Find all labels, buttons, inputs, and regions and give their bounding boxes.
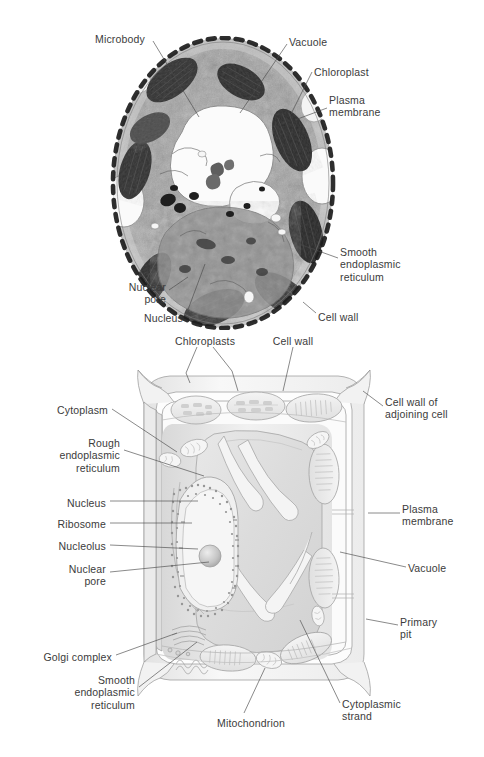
label-top-smooth-er: Smooth endoplasmic reticulum: [340, 246, 401, 283]
label-bottom-nucleus: Nucleus: [0, 497, 106, 509]
label-bottom-ribosome: Ribosome: [0, 518, 106, 530]
label-bottom-cell-wall-adjoining: Cell wall of adjoining cell: [385, 396, 448, 421]
label-bottom-smooth-er: Smooth endoplasmic reticulum: [0, 674, 135, 711]
plant-cell-drawing-image: [128, 362, 380, 706]
label-bottom-nuclear-pore: Nuclear pore: [0, 563, 106, 588]
label-bottom-golgi-complex: Golgi complex: [0, 651, 112, 663]
figure-page: MicrobodyVacuoleChloroplastPlasma membra…: [0, 0, 484, 757]
label-top-microbody: Microbody: [95, 33, 145, 45]
label-top-nuclear-pore: Nuclear pore: [0, 281, 166, 306]
label-top-nucleus: Nucleus: [0, 312, 183, 324]
label-bottom-rough-er: Rough endoplasmic reticulum: [0, 437, 120, 474]
label-top-plasma-membrane: Plasma membrane: [329, 94, 380, 119]
label-top-cell-wall: Cell wall: [318, 311, 358, 323]
label-bottom-nucleolus: Nucleolus: [0, 540, 106, 552]
label-top-chloroplast: Chloroplast: [314, 66, 369, 78]
label-bottom-cytoplasmic-strand: Cytoplasmic strand: [342, 698, 401, 723]
label-top-vacuole: Vacuole: [289, 36, 327, 48]
label-bottom-cytoplasm: Cytoplasm: [0, 404, 108, 416]
label-bottom-mitochondrion: Mitochondrion: [217, 717, 285, 729]
label-bottom-plasma-membrane: Plasma membrane: [402, 503, 453, 528]
label-bottom-vacuole: Vacuole: [408, 562, 446, 574]
label-bottom-cell-wall-top: Cell wall: [223, 335, 363, 347]
label-bottom-primary-pit: Primary pit: [400, 616, 437, 641]
